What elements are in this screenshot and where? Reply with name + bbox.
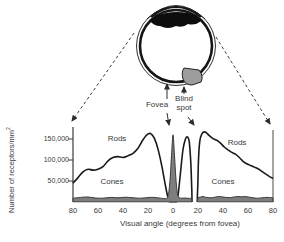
x-tick-label: 60 <box>244 206 252 215</box>
rods-left-label: Rods <box>97 134 137 143</box>
x-tick-label: 20 <box>144 206 152 215</box>
blind-spot-arrow-down <box>188 117 194 125</box>
rods-right-label: Rods <box>217 138 257 147</box>
x-tick-label: 0 <box>171 206 175 215</box>
blind-spot-label-line1: Blind <box>168 94 200 103</box>
x-tick-label: 80 <box>69 206 77 215</box>
x-tick-label: 60 <box>94 206 102 215</box>
blind-spot-label-line2: spot <box>168 103 200 112</box>
figure-graphics <box>0 0 284 242</box>
eye-diagram <box>137 6 216 86</box>
cones-curve-segment <box>73 135 192 202</box>
y-axis-title: Number of receptors/mm2 <box>5 110 17 230</box>
dashed-arrow-right <box>216 37 270 124</box>
blind-spot-label: Blind spot <box>168 94 200 112</box>
retina-receptor-distribution-figure: Number of receptors/mm2 Visual angle (de… <box>0 0 284 242</box>
x-tick-label: 40 <box>119 206 127 215</box>
optic-disc-blind-spot-blob <box>182 68 202 85</box>
cones-right-label: Cones <box>203 177 243 186</box>
dashed-arrow-left <box>72 33 134 121</box>
cones-left-label: Cones <box>92 177 132 186</box>
y-axis-title-superscript: 2 <box>5 127 11 130</box>
x-axis-title: Visual angle (degrees from fovea) <box>80 219 280 228</box>
y-axis-title-text: Number of receptors/mm <box>7 130 16 213</box>
x-tick-label: 40 <box>219 206 227 215</box>
y-tick-label: 150,000 <box>44 135 69 142</box>
fovea-arrow-down <box>167 113 169 125</box>
cones-curve-segment <box>197 197 273 203</box>
x-tick-label: 20 <box>194 206 202 215</box>
y-tick-label: 100,000 <box>44 156 69 163</box>
y-tick-label: 50,000 <box>48 177 69 184</box>
x-tick-label: 80 <box>269 206 277 215</box>
